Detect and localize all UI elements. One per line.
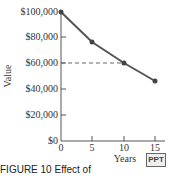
y-axis-label: Value	[2, 64, 13, 87]
data-points	[59, 10, 158, 84]
svg-text:0: 0	[59, 142, 64, 153]
svg-text:$80,000: $80,000	[26, 31, 59, 42]
series-line	[61, 12, 155, 81]
svg-text:10: 10	[119, 142, 129, 153]
figure-caption: FIGURE 10 Effect of	[0, 164, 91, 175]
chart: $0 $20,000 $40,000 $60,000 $80,000 $100,…	[0, 0, 171, 176]
svg-text:$100,000: $100,000	[21, 6, 59, 17]
svg-text:5: 5	[90, 142, 95, 153]
svg-text:$40,000: $40,000	[26, 83, 59, 94]
svg-text:$20,000: $20,000	[26, 109, 59, 120]
svg-text:15: 15	[150, 142, 160, 153]
svg-text:$0: $0	[48, 135, 58, 146]
svg-text:$60,000: $60,000	[26, 57, 59, 68]
x-axis-label: Years	[114, 153, 136, 164]
x-ticks: 0 5 10 15	[59, 136, 161, 153]
ppt-badge[interactable]: PPT	[146, 153, 166, 167]
y-ticks: $0 $20,000 $40,000 $60,000 $80,000 $100,…	[21, 6, 67, 146]
